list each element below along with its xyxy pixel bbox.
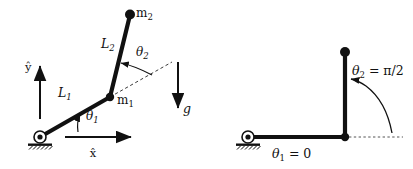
double-pendulum-figure: m2 m1 L2 L1 θ1 θ2 x̂ ŷ g [0,0,413,169]
mass-1-node [106,93,114,101]
gravity-label: g [183,101,191,116]
pivot-center-dot [37,134,42,139]
mass-2-node [125,10,135,20]
right-pivot-ground-bar [236,144,260,146]
right-pivot-center-dot [245,134,250,139]
x-axis-label: x̂ [90,146,97,160]
pivot-ground-bar [28,144,52,146]
right-joint-node [341,133,349,141]
y-axis-label: ŷ [24,60,32,74]
figure-root: m2 m1 L2 L1 θ1 θ2 x̂ ŷ g [0,0,413,169]
right-tip-node [340,47,350,57]
right-theta-1-equation: θ1 = 0 [272,146,311,163]
